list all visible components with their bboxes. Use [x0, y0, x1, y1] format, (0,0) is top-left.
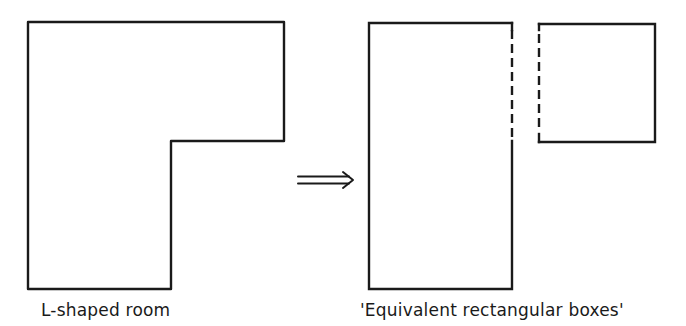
diagram-canvas: [0, 0, 686, 326]
tall-equivalent-box: [369, 23, 512, 289]
implies-arrow-icon: [298, 172, 353, 188]
equivalent-boxes-caption: 'Equivalent rectangular boxes': [360, 300, 624, 320]
square-equivalent-box: [539, 24, 655, 142]
l-shaped-room-outline: [28, 22, 284, 289]
l-shaped-room-caption: L-shaped room: [41, 300, 170, 320]
